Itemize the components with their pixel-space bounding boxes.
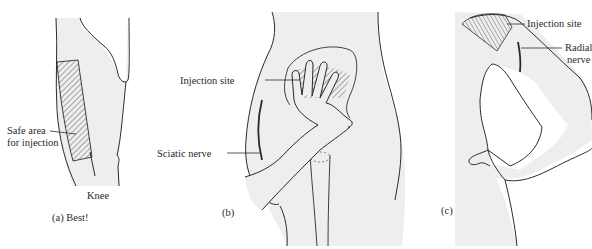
- label-radial: Radial: [565, 42, 592, 53]
- label-injection-site-b: Injection site: [180, 75, 235, 86]
- label-safe-area: Safe area: [7, 125, 46, 136]
- injection-sites-figure: Safe area for injection Knee (a) Best! I…: [0, 0, 592, 249]
- label-for-injection: for injection: [7, 137, 59, 148]
- figure-drawing: [0, 0, 592, 249]
- panel-b-hip: [227, 12, 405, 246]
- label-sciatic-nerve: Sciatic nerve: [157, 148, 212, 159]
- label-injection-site-c: Injection site: [527, 18, 582, 29]
- panel-a-thigh: [50, 18, 129, 186]
- label-nerve: nerve: [567, 54, 590, 65]
- caption-a: (a) Best!: [52, 212, 88, 223]
- caption-c: (c): [441, 205, 453, 216]
- caption-b: (b): [222, 207, 234, 218]
- label-knee: Knee: [87, 190, 109, 201]
